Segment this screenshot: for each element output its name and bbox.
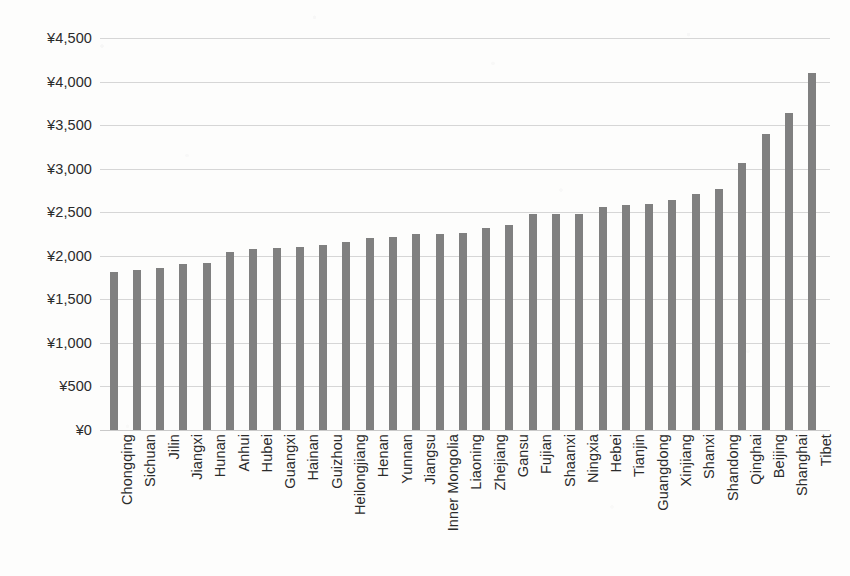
x-tick-label: Chongqing xyxy=(119,434,135,505)
x-tick-label: Guangdong xyxy=(655,434,671,511)
y-tick-label: ¥4,000 xyxy=(47,74,92,90)
bar[interactable] xyxy=(529,214,537,430)
bar-chart: ¥4,500¥4,000¥3,500¥3,000¥2,500¥2,000¥1,5… xyxy=(0,0,850,576)
y-tick-label: ¥4,500 xyxy=(47,30,92,46)
bar[interactable] xyxy=(319,245,327,430)
bar[interactable] xyxy=(156,268,164,430)
x-tick-label: Shanghai xyxy=(794,434,810,496)
bar[interactable] xyxy=(110,272,118,430)
x-tick-label: Hebei xyxy=(608,434,624,472)
bar[interactable] xyxy=(575,214,583,430)
x-tick-label: Jiangsu xyxy=(422,434,438,485)
x-tick-label: Heilongjiang xyxy=(352,434,368,515)
x-tick-label: Yunnan xyxy=(399,434,415,484)
bar[interactable] xyxy=(622,205,630,430)
bar[interactable] xyxy=(249,249,257,430)
bar[interactable] xyxy=(668,200,676,430)
bar[interactable] xyxy=(179,264,187,430)
x-axis: ChongqingSichuanJilinJiangxiHunanAnhuiHu… xyxy=(100,434,830,574)
bar[interactable] xyxy=(459,233,467,430)
y-tick-label: ¥2,500 xyxy=(47,204,92,220)
x-tick-label: Tianjin xyxy=(631,434,647,477)
bars-series xyxy=(100,38,830,430)
bar[interactable] xyxy=(715,189,723,430)
x-tick-label: Shaanxi xyxy=(562,434,578,487)
x-tick-label: Qinghai xyxy=(748,434,764,485)
y-tick-label: ¥1,000 xyxy=(47,335,92,351)
x-tick-label: Henan xyxy=(375,434,391,477)
plot-area xyxy=(100,38,830,430)
x-tick-label: Hainan xyxy=(305,434,321,481)
x-tick-label: Gansu xyxy=(515,434,531,477)
bar[interactable] xyxy=(273,248,281,430)
x-tick-label: Ningxia xyxy=(585,434,601,483)
y-tick-label: ¥1,500 xyxy=(47,291,92,307)
x-tick-label: Guangxi xyxy=(282,434,298,489)
x-tick-label: Guizhou xyxy=(329,434,345,489)
x-tick-label: Zhejiang xyxy=(492,434,508,490)
y-tick-label: ¥3,000 xyxy=(47,161,92,177)
x-tick-label: Anhui xyxy=(236,434,252,472)
bar[interactable] xyxy=(412,234,420,430)
bar[interactable] xyxy=(366,238,374,430)
bar[interactable] xyxy=(505,225,513,430)
bar[interactable] xyxy=(226,252,234,430)
bar[interactable] xyxy=(296,247,304,430)
bar[interactable] xyxy=(203,263,211,430)
y-tick-label: ¥0 xyxy=(76,422,92,438)
bar[interactable] xyxy=(133,270,141,430)
y-tick-label: ¥500 xyxy=(59,378,92,394)
x-tick-label: Jiangxi xyxy=(189,434,205,480)
bar[interactable] xyxy=(552,214,560,430)
y-axis: ¥4,500¥4,000¥3,500¥3,000¥2,500¥2,000¥1,5… xyxy=(0,38,92,430)
x-tick-label: Sichuan xyxy=(142,434,158,487)
y-tick-label: ¥3,500 xyxy=(47,117,92,133)
x-tick-label: Tibet xyxy=(818,434,834,466)
bar[interactable] xyxy=(738,163,746,430)
bar[interactable] xyxy=(692,194,700,431)
bar[interactable] xyxy=(436,234,444,430)
x-tick-label: Fujian xyxy=(538,434,554,474)
x-tick-label: Jilin xyxy=(166,434,182,459)
bar[interactable] xyxy=(808,73,816,430)
bar[interactable] xyxy=(599,207,607,430)
x-tick-label: Xinjiang xyxy=(678,434,694,486)
x-tick-label: Beijing xyxy=(771,434,787,478)
bar[interactable] xyxy=(762,134,770,430)
x-tick-label: Hunan xyxy=(212,434,228,477)
bar[interactable] xyxy=(342,242,350,430)
x-tick-label: Shandong xyxy=(725,434,741,501)
x-tick-label: Hubei xyxy=(259,434,275,472)
x-tick-label: Shanxi xyxy=(701,434,717,479)
bar[interactable] xyxy=(482,228,490,430)
bar[interactable] xyxy=(389,237,397,430)
bar[interactable] xyxy=(645,204,653,430)
y-tick-label: ¥2,000 xyxy=(47,248,92,264)
bar[interactable] xyxy=(785,113,793,430)
x-tick-label: Liaoning xyxy=(468,434,484,490)
gridline xyxy=(100,430,830,431)
x-tick-label: Inner Mongolia xyxy=(445,434,461,531)
